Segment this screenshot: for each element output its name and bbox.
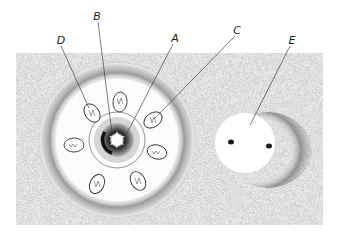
nucleus-dot [266, 144, 272, 149]
label-b: B [93, 11, 101, 22]
label-d: D [57, 35, 65, 46]
label-e: E [289, 35, 296, 46]
large-cell [37, 60, 197, 220]
label-a: A [171, 33, 179, 44]
label-c: C [233, 25, 241, 36]
nucleus-dot [228, 140, 234, 145]
